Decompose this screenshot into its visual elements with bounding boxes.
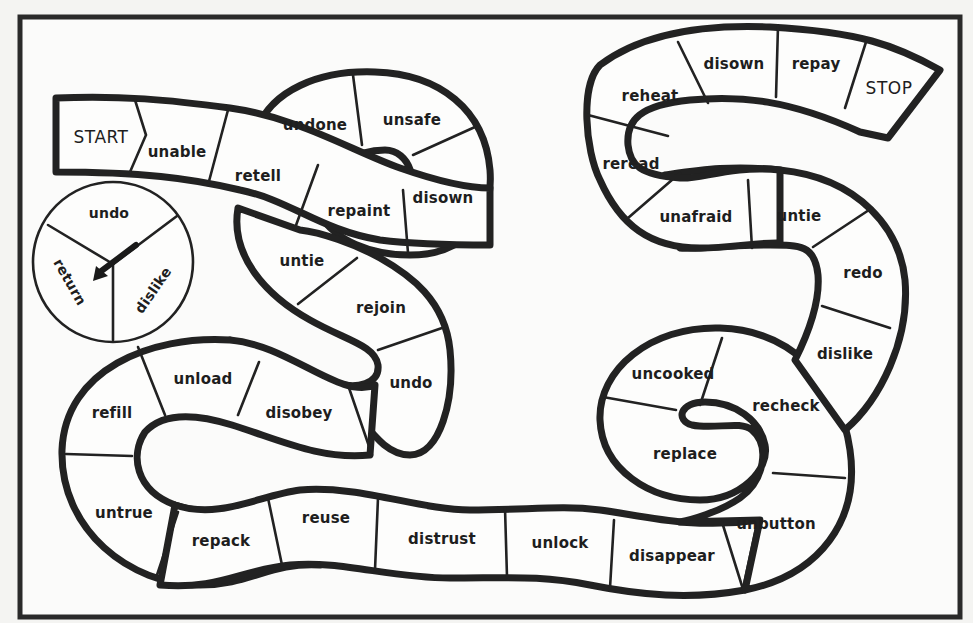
space-disappear[interactable]: disappear xyxy=(629,547,715,565)
space-untie-2[interactable]: untie xyxy=(777,207,822,225)
space-recheck[interactable]: recheck xyxy=(752,397,820,415)
space-undone[interactable]: undone xyxy=(283,116,347,134)
space-unafraid[interactable]: unafraid xyxy=(659,208,732,226)
space-redo[interactable]: redo xyxy=(843,264,882,282)
space-reheat[interactable]: reheat xyxy=(622,87,679,105)
space-dislike[interactable]: dislike xyxy=(817,345,873,363)
space-reuse[interactable]: reuse xyxy=(302,509,350,527)
space-retell[interactable]: retell xyxy=(235,167,281,185)
space-unable[interactable]: unable xyxy=(148,143,207,161)
game-board: undo dislike return START unable retell … xyxy=(0,0,973,623)
space-undo[interactable]: undo xyxy=(389,374,432,392)
space-unlock[interactable]: unlock xyxy=(532,534,589,552)
space-repay[interactable]: repay xyxy=(792,55,841,73)
space-reread[interactable]: reread xyxy=(602,155,659,173)
space-uncooked[interactable]: uncooked xyxy=(632,365,715,383)
space-repack[interactable]: repack xyxy=(192,532,251,550)
space-stop[interactable]: STOP xyxy=(866,78,913,98)
space-unload[interactable]: unload xyxy=(174,370,233,388)
space-unsafe[interactable]: unsafe xyxy=(383,111,441,129)
space-replace[interactable]: replace xyxy=(653,445,717,463)
space-start[interactable]: START xyxy=(74,127,129,147)
space-repaint[interactable]: repaint xyxy=(328,202,391,220)
space-unbutton[interactable]: unbutton xyxy=(736,515,816,533)
space-disown-1[interactable]: disown xyxy=(413,189,474,207)
spinner-section-undo: undo xyxy=(89,205,129,221)
space-disobey[interactable]: disobey xyxy=(265,404,332,422)
space-rejoin[interactable]: rejoin xyxy=(356,299,406,317)
space-disown-2[interactable]: disown xyxy=(704,55,765,73)
space-distrust[interactable]: distrust xyxy=(408,530,476,548)
space-untie-1[interactable]: untie xyxy=(280,252,325,270)
space-refill[interactable]: refill xyxy=(92,404,133,422)
space-untrue[interactable]: untrue xyxy=(95,504,153,522)
